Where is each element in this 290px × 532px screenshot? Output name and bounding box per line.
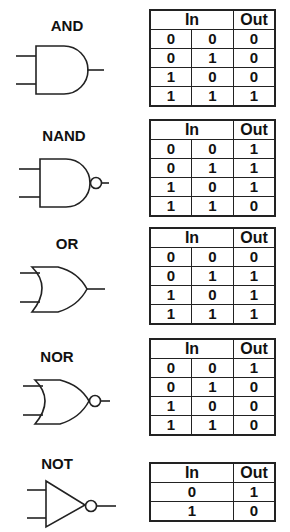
table-row: 111 [150,87,275,107]
truth-table-nand: InOut 001 011 101 110 [149,119,276,217]
header-in: In [150,120,234,140]
cell: 0 [234,502,276,522]
table-row: 10 [150,502,275,522]
table-row: 000 [150,248,275,267]
table-row: 101 [150,178,275,197]
truth-table-and: InOut 000 010 100 111 [149,9,276,107]
cell: 1 [234,483,276,502]
cell: 1 [234,359,276,378]
cell: 0 [192,68,234,87]
cell: 1 [150,416,192,436]
or-gate-icon [0,260,140,320]
table-row: 101 [150,286,275,305]
header-out: Out [234,120,276,140]
truth-table-not: InOut 01 10 [149,462,276,522]
table-row: 110 [150,416,275,436]
cell: 1 [150,68,192,87]
cell: 1 [150,197,192,217]
cell: 1 [192,159,234,178]
cell: 0 [234,378,276,397]
table-row: 010 [150,378,275,397]
cell: 1 [150,178,192,197]
cell: 0 [192,248,234,267]
cell: 0 [192,286,234,305]
table-row: 011 [150,159,275,178]
table-row: 111 [150,305,275,325]
table-row: 010 [150,49,275,68]
cell: 1 [234,159,276,178]
header-out: Out [234,10,276,30]
cell: 0 [150,267,192,286]
cell: 1 [150,87,192,107]
cell: 0 [150,248,192,267]
cell: 0 [192,140,234,159]
cell: 0 [150,378,192,397]
cell: 0 [150,49,192,68]
gate-label-nor: NOR [7,348,107,365]
header-out: Out [234,339,276,359]
cell: 1 [192,267,234,286]
cell: 0 [234,248,276,267]
cell: 0 [234,68,276,87]
cell: 1 [234,140,276,159]
table-row: 000 [150,30,275,49]
table-row: 011 [150,267,275,286]
cell: 1 [192,197,234,217]
cell: 1 [150,502,234,522]
cell: 0 [234,397,276,416]
cell: 0 [234,30,276,49]
cell: 1 [150,397,192,416]
nand-gate-icon [0,150,140,210]
cell: 1 [234,267,276,286]
header-out: Out [234,463,276,483]
not-gate-icon [0,475,140,532]
gate-label-or: OR [17,235,117,252]
truth-table-or: InOut 000 011 101 111 [149,227,276,325]
cell: 1 [234,286,276,305]
cell: 0 [150,30,192,49]
header-in: In [150,463,234,483]
cell: 0 [192,30,234,49]
cell: 1 [192,416,234,436]
header-out: Out [234,228,276,248]
gate-label-and: AND [17,17,117,34]
cell: 0 [234,416,276,436]
table-row: 01 [150,483,275,502]
table-row: 100 [150,397,275,416]
cell: 0 [192,397,234,416]
cell: 1 [234,178,276,197]
cell: 1 [234,305,276,325]
header-in: In [150,228,234,248]
cell: 0 [150,359,192,378]
header-in: In [150,339,234,359]
table-row: 001 [150,140,275,159]
cell: 1 [234,87,276,107]
cell: 0 [192,178,234,197]
and-gate-icon [0,40,140,100]
cell: 1 [192,87,234,107]
cell: 0 [150,159,192,178]
truth-table-nor: InOut 001 010 100 110 [149,338,276,436]
header-in: In [150,10,234,30]
gate-label-nand: NAND [14,127,114,144]
cell: 1 [192,49,234,68]
cell: 0 [192,359,234,378]
nor-gate-icon [0,370,140,430]
cell: 1 [150,305,192,325]
cell: 1 [192,305,234,325]
cell: 1 [192,378,234,397]
gate-label-not: NOT [7,455,107,472]
table-row: 100 [150,68,275,87]
table-row: 110 [150,197,275,217]
cell: 0 [150,483,234,502]
cell: 0 [234,197,276,217]
cell: 0 [234,49,276,68]
cell: 1 [150,286,192,305]
table-row: 001 [150,359,275,378]
cell: 0 [150,140,192,159]
